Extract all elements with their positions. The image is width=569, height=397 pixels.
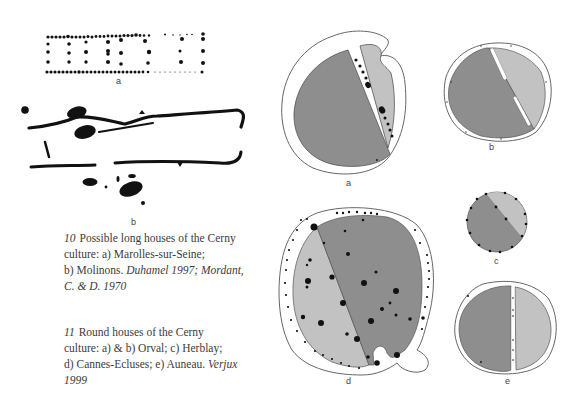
caption-11-citation-1: Verjux	[208, 358, 237, 370]
caption-10-line-1: Possible long houses of the Cerny	[80, 232, 236, 244]
round-house-b-diagram	[441, 42, 556, 142]
figure-11b-round-house-plan	[441, 42, 556, 142]
figure-10b-long-house-plan	[15, 112, 250, 222]
trench-plan-diagram	[15, 112, 250, 222]
figure-11e-label: e	[505, 376, 510, 386]
caption-11-line-1: Round houses of the Cerny	[79, 326, 204, 338]
figure-11c-label: c	[494, 256, 499, 266]
figure-11e-round-house-plan	[453, 280, 558, 376]
figure-10b-label: b	[131, 217, 136, 227]
round-house-d-diagram	[277, 205, 437, 377]
figure-11-caption: 11Round houses of the Cerny culture: a) …	[64, 324, 264, 388]
figure-11a-round-house-plan	[278, 28, 423, 180]
caption-11-line-2: culture: a) & b) Orval; c) Herblay;	[64, 342, 222, 354]
round-house-a-diagram	[278, 28, 423, 180]
figure-11a-label: a	[346, 178, 351, 188]
caption-10-citation-1: Duhamel 1997; Mordant,	[126, 264, 243, 276]
caption-10-line-2: culture: a) Marolles-sur-Seine;	[64, 248, 205, 260]
figure-11d-round-house-plan	[277, 205, 437, 377]
posthole-plan-diagram	[40, 28, 215, 76]
figure-10a-label: a	[116, 76, 121, 86]
caption-10-line-3: b) Molinons.	[64, 264, 126, 276]
round-house-e-diagram	[453, 280, 558, 376]
caption-11-citation-2: 1999	[64, 374, 87, 386]
figure-11d-label: d	[346, 376, 351, 386]
figure-11c-round-house-plan	[464, 190, 530, 254]
caption-11-line-3: d) Cannes-Ecluses; e) Auneau.	[64, 358, 208, 370]
caption-10-citation-2: C. & D. 1970	[64, 280, 126, 292]
round-house-c-diagram	[464, 190, 530, 254]
figure-10a-long-house-plan	[40, 28, 215, 76]
figure-10-caption: 10Possible long houses of the Cerny cult…	[64, 230, 264, 294]
figure-11b-label: b	[489, 142, 494, 152]
figure-11-number: 11	[64, 326, 75, 338]
figure-10-number: 10	[64, 232, 76, 244]
